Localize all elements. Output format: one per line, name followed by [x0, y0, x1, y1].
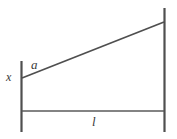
diagonal-line-a: [22, 22, 164, 78]
label-x: x: [5, 70, 12, 84]
geometry-diagram: a x l: [0, 0, 177, 139]
label-l: l: [92, 114, 96, 129]
diagram-canvas: a x l: [0, 0, 177, 139]
label-a: a: [31, 57, 38, 72]
